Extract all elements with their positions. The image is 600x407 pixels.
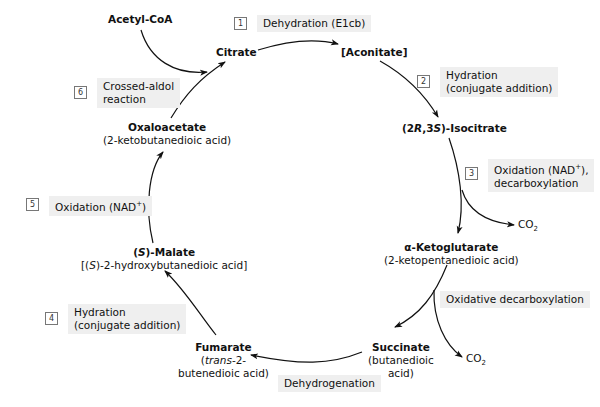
compound-name: Oxaloacetate bbox=[103, 121, 231, 134]
step-6: 6 Crossed-aldolreaction bbox=[74, 78, 180, 108]
compound-iupac-line2: butenedioic acid) bbox=[178, 367, 269, 380]
step-dehydrogenation: Dehydrogenation bbox=[278, 375, 381, 392]
compound-isocitrate: (2R,3S)-Isocitrate bbox=[402, 122, 507, 135]
step-label-line2: decarboxylation bbox=[494, 177, 588, 190]
step-3: 3 Oxidation (NAD+),decarboxylation bbox=[465, 159, 594, 192]
step-2: 2 Hydration(conjugate addition) bbox=[417, 67, 558, 97]
text: R bbox=[414, 122, 422, 134]
text: )-Isocitrate bbox=[441, 122, 507, 134]
text: -2- bbox=[232, 354, 246, 366]
text: ,3 bbox=[422, 122, 433, 134]
step-label-line2: reaction bbox=[103, 93, 174, 106]
co2-byproduct-1: CO2 bbox=[518, 218, 538, 233]
step-number: 4 bbox=[45, 312, 58, 325]
text: S bbox=[89, 259, 96, 271]
text: CO bbox=[466, 352, 482, 364]
step-label-line2: (conjugate addition) bbox=[446, 82, 552, 95]
compound-name: [Aconitate] bbox=[341, 46, 407, 58]
compound-aconitate: [Aconitate] bbox=[341, 46, 407, 59]
compound-malate: (S)-Malate [(S)-2-hydroxybutanedioic aci… bbox=[81, 246, 247, 272]
text: Oxidation (NAD bbox=[55, 201, 136, 213]
compound-citrate: Citrate bbox=[216, 46, 257, 59]
text: )-2-hydroxybutanedioic acid] bbox=[96, 259, 247, 271]
step-number: 3 bbox=[465, 167, 478, 180]
step-label: Dehydrogenation bbox=[278, 375, 381, 392]
compound-name: α-Ketoglutarate bbox=[384, 241, 519, 254]
step-label: Oxidative decarboxylation bbox=[440, 291, 590, 308]
arrow-citrate-aconitate bbox=[258, 41, 338, 50]
compound-name: Succinate bbox=[368, 341, 434, 354]
compound-iupac: (2-ketobutanedioic acid) bbox=[103, 134, 231, 147]
text: Oxidation (NAD bbox=[494, 164, 575, 176]
step-label-line1: Hydration bbox=[446, 69, 552, 82]
text: 2 bbox=[534, 225, 538, 233]
compound-name: Acetyl-CoA bbox=[108, 13, 172, 25]
compound-name: Citrate bbox=[216, 46, 257, 58]
co2-byproduct-2: CO2 bbox=[466, 352, 486, 367]
arrow-acetylcoa-citrate bbox=[141, 30, 207, 72]
step-label: Dehydration (E1cb) bbox=[257, 15, 371, 32]
compound-fumarate: Fumarate (trans-2- butenedioic acid) bbox=[178, 341, 269, 380]
text: S bbox=[434, 122, 442, 134]
text: 2 bbox=[482, 359, 486, 367]
compound-oxaloacetate: Oxaloacetate (2-ketobutanedioic acid) bbox=[103, 121, 231, 147]
step-5: 5 Oxidation (NAD+) bbox=[26, 196, 152, 216]
text: CO bbox=[518, 218, 534, 230]
compound-alpha-ketoglutarate: α-Ketoglutarate (2-ketopentanedioic acid… bbox=[384, 241, 519, 267]
text: (2 bbox=[402, 122, 414, 134]
text: trans bbox=[205, 354, 232, 366]
compound-iupac-line1: (butanedioic bbox=[368, 354, 434, 367]
text: ) bbox=[142, 201, 146, 213]
text: [( bbox=[81, 259, 89, 271]
arrow-co2-release-1 bbox=[462, 190, 514, 225]
step-number: 1 bbox=[234, 17, 247, 30]
arrow-isocitrate-aketoglutarate bbox=[449, 138, 461, 233]
step-number: 5 bbox=[26, 198, 39, 211]
step-label-line1: Hydration bbox=[74, 306, 180, 319]
text: ), bbox=[581, 164, 588, 176]
step-oxidative-decarboxylation: Oxidative decarboxylation bbox=[440, 291, 590, 308]
step-number: 6 bbox=[74, 86, 87, 99]
step-4: 4 Hydration(conjugate addition) bbox=[45, 304, 186, 334]
step-label-line1: Crossed-aldol bbox=[103, 80, 174, 93]
compound-name: Fumarate bbox=[178, 341, 269, 354]
compound-iupac: (2-ketopentanedioic acid) bbox=[384, 254, 519, 267]
compound-acetyl-coa: Acetyl-CoA bbox=[108, 13, 172, 26]
step-label-line2: (conjugate addition) bbox=[74, 319, 180, 332]
text: )-Malate bbox=[146, 246, 196, 258]
step-1: 1 Dehydration (E1cb) bbox=[234, 15, 371, 32]
text: S bbox=[138, 246, 146, 258]
step-number: 2 bbox=[417, 75, 430, 88]
